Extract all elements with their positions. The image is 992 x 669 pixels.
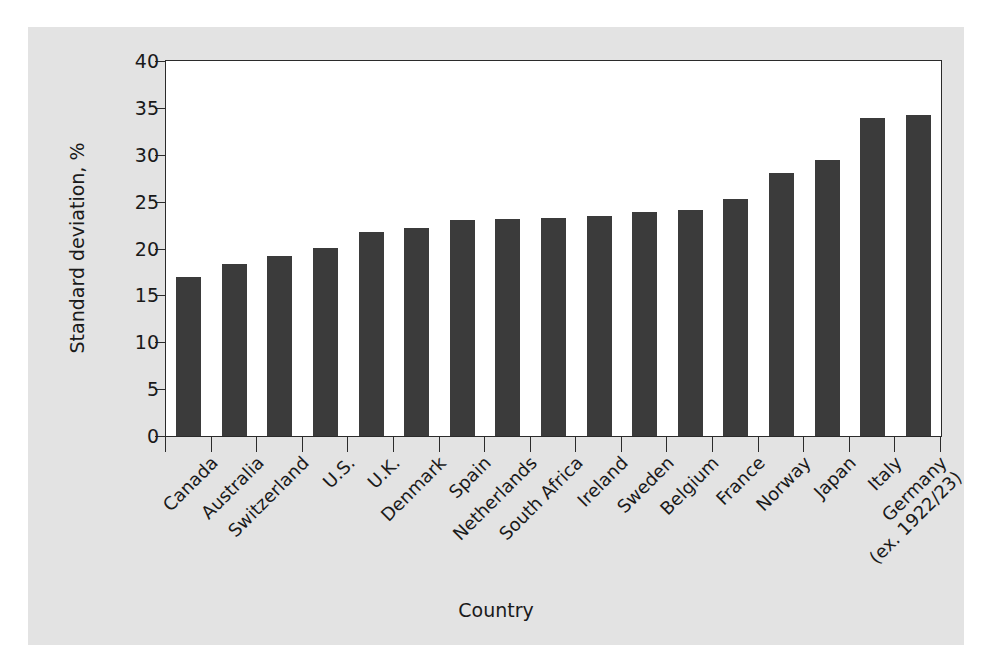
x-tick-mark — [575, 436, 576, 452]
y-tick-label: 10 — [135, 333, 159, 352]
y-axis-title: Standard deviation, % — [62, 60, 92, 435]
x-tick-mark — [393, 436, 394, 452]
bar-cell — [576, 61, 622, 436]
bar-cell — [166, 61, 212, 436]
x-tick-mark — [530, 436, 531, 452]
bar-cell — [668, 61, 714, 436]
bar-cell — [713, 61, 759, 436]
x-tick-mark — [211, 436, 212, 452]
bar — [587, 216, 612, 436]
plot-area: 0510152025303540 — [165, 60, 942, 437]
bar — [769, 173, 794, 436]
x-tick-label: U.S. — [318, 452, 358, 492]
y-tick-label: 0 — [147, 427, 159, 446]
y-axis-title-text: Standard deviation, % — [66, 142, 88, 353]
bar-cell — [531, 61, 577, 436]
x-tick-label: Germany(ex. 1922/23) — [850, 452, 966, 568]
bar-cell — [804, 61, 850, 436]
bar-cell — [759, 61, 805, 436]
x-tick-mark — [894, 436, 895, 452]
bar — [860, 118, 885, 436]
bar-cell — [485, 61, 531, 436]
x-axis-title: Country — [28, 599, 964, 621]
bar-cell — [257, 61, 303, 436]
y-tick-label: 30 — [135, 145, 159, 164]
bar — [723, 199, 748, 436]
x-tick-mark — [302, 436, 303, 452]
bar-cell — [896, 61, 942, 436]
x-tick-label-line: U.S. — [318, 452, 358, 492]
x-tick-mark — [347, 436, 348, 452]
bar — [404, 228, 429, 436]
y-tick-label: 5 — [147, 380, 159, 399]
bar — [267, 256, 292, 436]
bar-cell — [850, 61, 896, 436]
bar — [222, 264, 247, 437]
bar — [815, 160, 840, 436]
x-tick-mark — [849, 436, 850, 452]
x-tick-mark — [621, 436, 622, 452]
bar — [450, 220, 475, 436]
x-tick-mark — [439, 436, 440, 452]
x-tick-mark — [666, 436, 667, 452]
bar-cell — [622, 61, 668, 436]
x-tick-label: Japan — [810, 452, 860, 502]
bar — [906, 115, 931, 436]
x-tick-mark — [940, 436, 941, 452]
bar-cell — [212, 61, 258, 436]
bar — [632, 212, 657, 436]
y-tick-label: 25 — [135, 192, 159, 211]
bar-cell — [394, 61, 440, 436]
bar — [541, 218, 566, 436]
bar-series — [166, 61, 941, 436]
y-tick-label: 15 — [135, 286, 159, 305]
x-tick-mark — [712, 436, 713, 452]
bar — [176, 277, 201, 436]
x-axis-labels: CanadaAustraliaSwitzerlandU.S.U.K.Denmar… — [165, 452, 940, 602]
x-tick-mark — [256, 436, 257, 452]
x-tick-mark — [484, 436, 485, 452]
x-tick-label-line: U.K. — [364, 452, 405, 493]
x-tick-label-line: Japan — [810, 452, 860, 502]
x-tick-mark — [803, 436, 804, 452]
x-tick-mark — [758, 436, 759, 452]
x-tick-mark — [165, 436, 166, 452]
y-tick-label: 40 — [135, 52, 159, 71]
bar-cell — [440, 61, 486, 436]
bar — [495, 219, 520, 437]
y-tick-label: 20 — [135, 239, 159, 258]
bar — [678, 210, 703, 436]
x-axis-ticks — [165, 436, 941, 452]
bar — [313, 248, 338, 436]
y-tick-label: 35 — [135, 98, 159, 117]
bar-cell — [348, 61, 394, 436]
bar — [359, 232, 384, 436]
bar-cell — [303, 61, 349, 436]
x-tick-label: U.K. — [364, 452, 405, 493]
figure: Standard deviation, % 0510152025303540 C… — [28, 27, 964, 645]
